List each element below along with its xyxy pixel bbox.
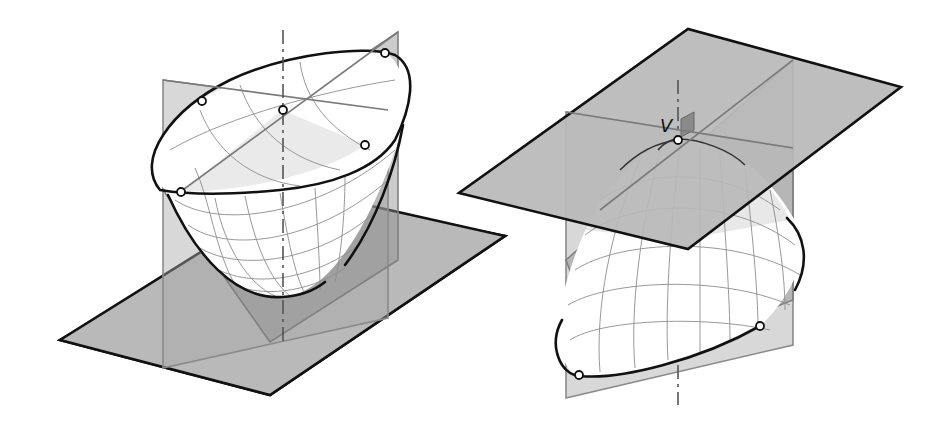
left-point-2 xyxy=(279,106,287,114)
right-vertex-point xyxy=(674,136,682,144)
vertex-label: V xyxy=(660,115,674,136)
right-point-2 xyxy=(756,322,764,330)
right-paraboloid-figure: V xyxy=(459,29,901,405)
left-point-4 xyxy=(361,141,369,149)
right-point-1 xyxy=(575,371,583,379)
diagram-canvas: V xyxy=(0,0,941,425)
left-point-5 xyxy=(177,188,185,196)
left-point-1 xyxy=(198,97,206,105)
left-paraboloid-figure xyxy=(60,30,505,395)
left-point-3 xyxy=(381,49,389,57)
